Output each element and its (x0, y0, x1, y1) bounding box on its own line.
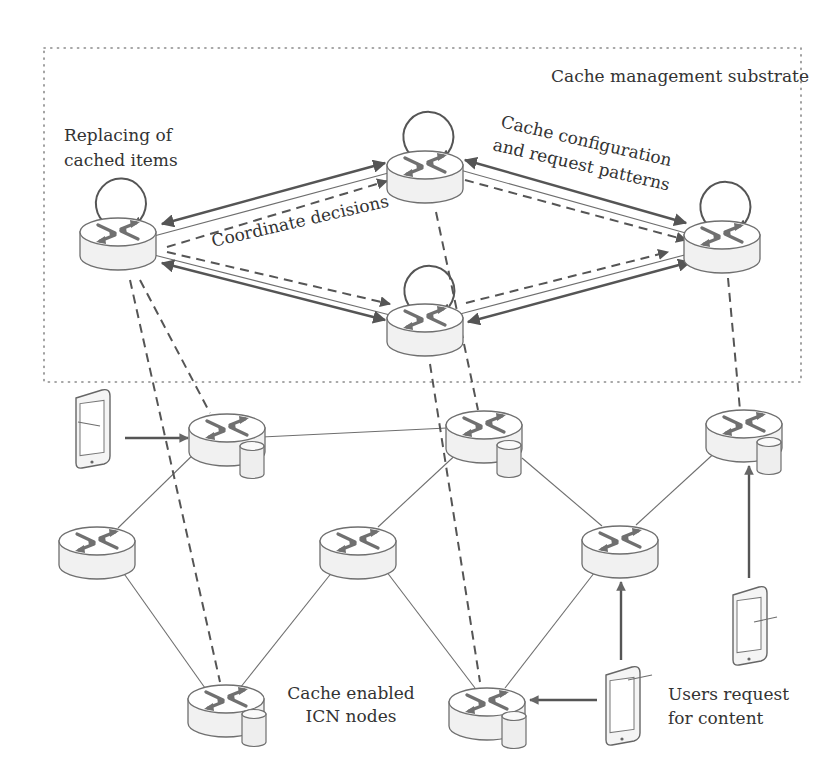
router-icon-mmiddle (387, 304, 463, 356)
link-n4-n7 (120, 568, 205, 688)
arrow-mmiddle-mright (468, 262, 690, 322)
cache-icon-n1 (240, 442, 264, 479)
link-n6-n3 (636, 448, 720, 525)
cache-icon-n2 (497, 441, 521, 478)
coordinate-label: Coordinate decisions (209, 191, 390, 251)
link-n5-n8 (383, 567, 475, 688)
router-icon-mtop (387, 151, 463, 203)
link-mleft-mmiddle (154, 255, 390, 315)
tablet-icon-right (733, 587, 767, 666)
tablet-icon-left (76, 390, 110, 469)
arrow-mleft-mmiddle (162, 263, 385, 320)
cache-icon-n8 (502, 712, 526, 749)
icn-cache-management-diagram: Cache management substrate Replacing of … (0, 0, 840, 771)
cache-icon-n7 (242, 710, 266, 747)
link-n7-n5 (240, 566, 337, 688)
icn-label-line2: ICN nodes (306, 706, 397, 726)
link-n1-n2 (262, 428, 447, 437)
link-n2-n6 (522, 458, 602, 526)
icn-label-line1: Cache enabled (287, 683, 415, 703)
mapping-mleft-n7 (130, 280, 220, 682)
router-icon-n6 (582, 526, 658, 578)
router-icon-n4 (59, 527, 135, 579)
substrate-label: Cache management substrate (551, 66, 809, 86)
users-label-line2: for content (668, 708, 764, 728)
replacing-label-line2: cached items (64, 150, 178, 170)
cache-icon-n3 (757, 438, 781, 475)
replacing-label-line1: Replacing of (64, 125, 174, 145)
link-mmiddle-mright (460, 252, 696, 314)
mapping-mright-n3 (728, 278, 740, 410)
users-label-line1: Users request (668, 684, 789, 704)
dashed-mleft-mmiddle (167, 252, 390, 304)
router-icon-mleft (80, 218, 156, 270)
link-n8-n6 (505, 568, 598, 688)
link-n1-n4 (118, 448, 200, 528)
router-icon-mright (684, 221, 760, 273)
mapping-mleft-n1 (140, 280, 210, 413)
router-icon-n5 (320, 527, 396, 579)
